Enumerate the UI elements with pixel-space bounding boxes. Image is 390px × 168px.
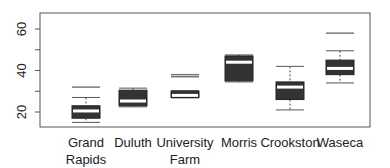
boxes: [72, 33, 354, 122]
x-tick-label: Crookston: [260, 135, 319, 150]
y-tick-label: 20: [14, 105, 29, 119]
box: [225, 56, 253, 81]
x-tick-label: Duluth: [114, 135, 152, 150]
box: [119, 90, 147, 106]
x-tick-label: Waseca: [317, 135, 364, 150]
x-tick-label: University: [156, 135, 214, 150]
median-line: [327, 67, 353, 70]
y-axis: 204060: [14, 22, 40, 119]
median-line: [172, 94, 198, 97]
boxplot-chart: 204060 GrandRapidsDuluthUniversityFarmMo…: [0, 0, 390, 168]
median-line: [277, 86, 303, 89]
x-tick-label: Farm: [170, 152, 200, 167]
box-duluth: [119, 88, 147, 107]
box-waseca: [326, 33, 354, 83]
box-grand-rapids: [72, 87, 100, 122]
box: [276, 82, 304, 100]
median-line: [226, 61, 252, 64]
x-tick-label: Grand: [68, 135, 104, 150]
box-crookston: [276, 66, 304, 110]
y-tick-label: 60: [14, 22, 29, 36]
median-line: [73, 109, 99, 112]
x-tick-label: Morris: [221, 135, 258, 150]
x-tick-label: Rapids: [66, 152, 107, 167]
x-axis-labels: GrandRapidsDuluthUniversityFarmMorrisCro…: [66, 135, 364, 167]
box-morris: [225, 55, 253, 82]
median-line: [120, 100, 146, 103]
box-university-farm: [171, 75, 199, 98]
y-tick-label: 40: [14, 63, 29, 77]
